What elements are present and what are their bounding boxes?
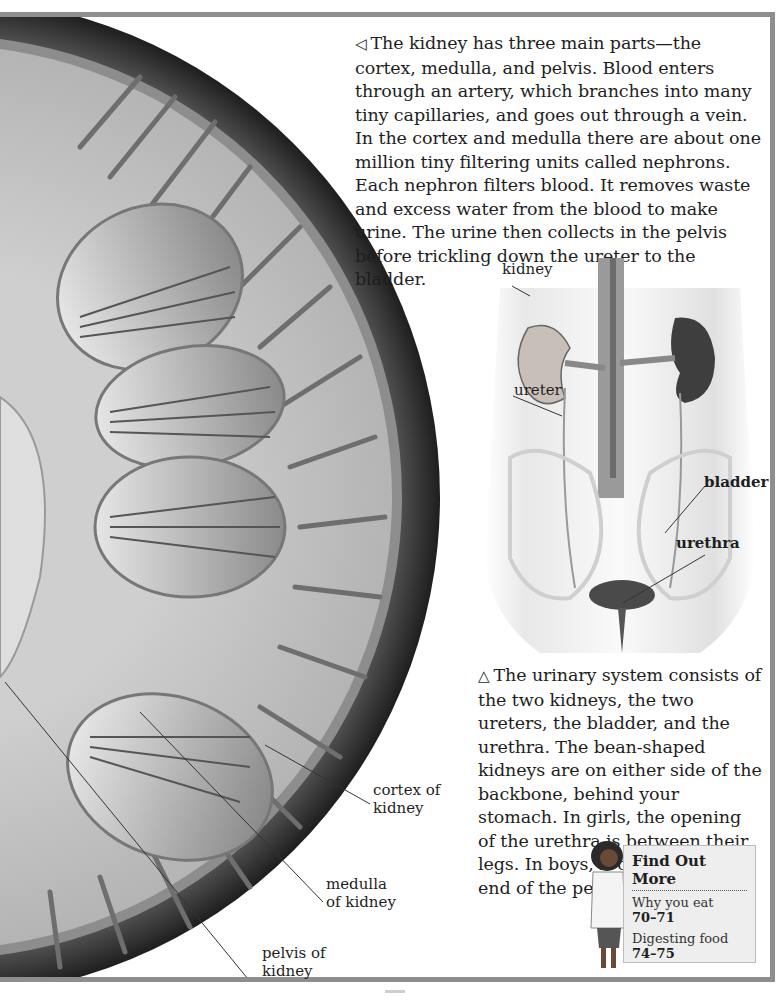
page-frame-right — [770, 12, 775, 982]
ureter-label: ureter — [514, 381, 562, 399]
page-number-marker — [385, 990, 405, 993]
find-out-more-topic: Why you eat — [632, 895, 747, 910]
page-frame-bottom — [0, 977, 775, 982]
bladder-label: bladder — [704, 473, 768, 491]
find-out-more-link-digesting-food[interactable]: Digesting food 74–75 — [632, 931, 747, 961]
cortex-label-line1: cortex of — [373, 781, 440, 799]
left-arrow-icon: ◁ — [355, 35, 366, 53]
medulla-label-line1: medulla — [326, 875, 396, 893]
find-out-more-pages: 70–71 — [632, 910, 747, 925]
pelvis-label-line1: pelvis of — [262, 944, 326, 962]
find-out-more-box: Find Out More Why you eat 70–71 Digestin… — [623, 845, 756, 963]
cortex-label: cortex of kidney — [373, 781, 440, 817]
cortex-label-line2: kidney — [373, 799, 440, 817]
urinary-system-illustration — [470, 258, 770, 653]
find-out-more-pages: 74–75 — [632, 946, 747, 961]
kidney-label: kidney — [502, 260, 553, 278]
find-out-more-title: Find Out More — [632, 852, 747, 891]
pelvis-label: pelvis of kidney — [262, 944, 326, 980]
find-out-more-topic: Digesting food — [632, 931, 747, 946]
pelvis-label-line2: kidney — [262, 962, 326, 980]
caption-text: The kidney has three main parts—the cort… — [355, 33, 761, 289]
urethra-label: urethra — [676, 534, 740, 552]
find-out-more-link-why-you-eat[interactable]: Why you eat 70–71 — [632, 895, 747, 925]
medulla-label: medulla of kidney — [326, 875, 396, 911]
up-arrow-icon: △ — [478, 667, 489, 685]
medulla-label-line2: of kidney — [326, 893, 396, 911]
kidney-structure-caption: ◁The kidney has three main parts—the cor… — [355, 32, 765, 292]
